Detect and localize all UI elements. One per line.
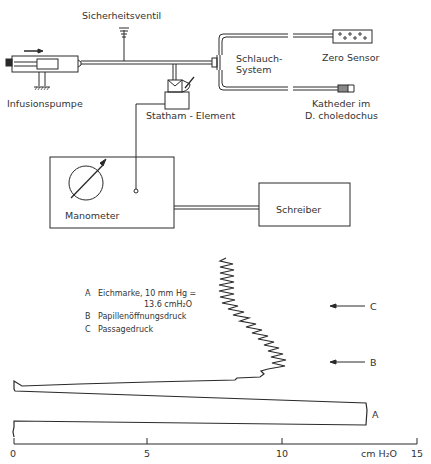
- legend-text-c: Passagedruck: [98, 325, 153, 335]
- zero-sensor-icon: [333, 30, 372, 43]
- infusion-pump-icon: [6, 49, 81, 90]
- label-recorder: Schreiber: [276, 204, 321, 215]
- label-safety-valve: Sicherheitsventil: [82, 10, 161, 21]
- arrow-b-icon: [330, 360, 365, 364]
- label-manometer: Manometer: [65, 210, 119, 221]
- pressure-trace: [13, 258, 367, 437]
- marker-a: A: [372, 409, 379, 420]
- safety-valve-icon: [119, 28, 129, 61]
- legend-key-c: C: [85, 325, 91, 335]
- label-catheter-2: D. choledochus: [305, 110, 378, 121]
- label-statham-element: Statham - Element: [146, 110, 235, 121]
- legend-text-a-1: Eichmarke, 10 mm Hg =: [98, 289, 196, 299]
- legend-text-b: Papillenöffnungsdruck: [98, 312, 186, 322]
- legend-key-a: A: [85, 289, 90, 299]
- label-zero-sensor: Zero Sensor: [322, 52, 379, 63]
- legend-key-b: B: [85, 312, 91, 322]
- tick-5: 5: [144, 448, 150, 459]
- apparatus-and-trace-drawing: [0, 0, 431, 464]
- catheter-icon: [338, 85, 354, 92]
- label-tube-system-2: System: [236, 64, 271, 75]
- tick-0: 0: [10, 448, 16, 459]
- marker-b: B: [370, 357, 377, 368]
- tick-10: 10: [276, 448, 288, 459]
- tick-15: 15: [411, 448, 423, 459]
- arrow-c-icon: [330, 304, 365, 308]
- marker-c: C: [370, 301, 377, 312]
- tube-connector-icon: [212, 55, 220, 70]
- label-catheter-1: Katheder im: [312, 98, 370, 109]
- statham-element-icon: [165, 77, 194, 109]
- label-tube-system-1: Schlauch-: [236, 53, 282, 64]
- x-axis: [14, 438, 417, 444]
- label-infusion-pump: Infusionspumpe: [7, 98, 83, 109]
- legend-text-a-2: 13.6 cmH₂O: [144, 300, 192, 310]
- axis-unit: cm H₂O: [361, 448, 397, 459]
